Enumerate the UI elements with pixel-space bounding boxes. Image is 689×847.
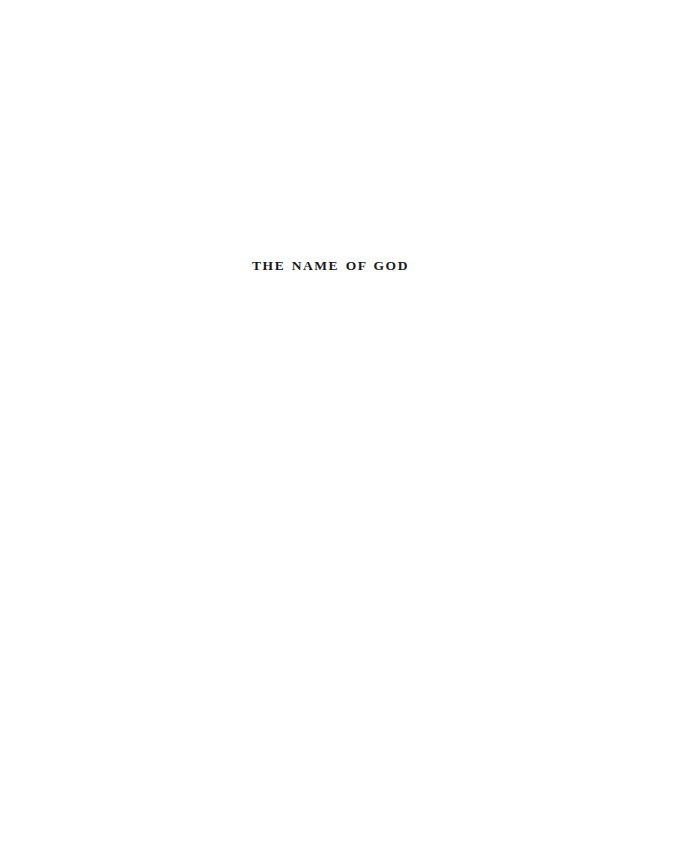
page-title: THE NAME OF GOD bbox=[252, 258, 409, 274]
book-page: THE NAME OF GOD bbox=[0, 0, 689, 847]
section-title-block: THE NAME OF GOD bbox=[0, 256, 689, 274]
